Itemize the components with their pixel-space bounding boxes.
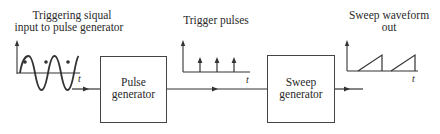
pulse-arrow-icon: [215, 57, 220, 63]
pulse-generator-block: Pulse generator: [101, 57, 167, 123]
flow-arrow-icon: [344, 87, 350, 92]
trigger-pulses-t-label: t: [246, 74, 249, 85]
input-signal-t-label: t: [78, 73, 81, 84]
flow-arrow-icon: [212, 87, 218, 92]
y-axis-arrow-icon: [181, 40, 185, 46]
trigger-point-icon: [44, 60, 48, 64]
trigger-point-icon: [23, 60, 27, 64]
pulse-arrows: [198, 57, 237, 72]
input-signal-title-line2: input to pulse generator: [15, 21, 124, 34]
trigger-pulses-group: Trigger pulses t: [181, 14, 250, 85]
sawtooth-waveform: [358, 55, 415, 71]
y-axis-arrow-icon: [15, 40, 19, 46]
sweep-generator-label-line2: generator: [279, 88, 323, 101]
trigger-pulses-title: Trigger pulses: [183, 14, 249, 27]
block-diagram: Triggering siqual input to pulse generat…: [0, 0, 440, 134]
sweep-output-t-label: t: [412, 73, 415, 84]
flow-arrow-icon: [83, 87, 89, 92]
trigger-point-icon: [66, 60, 70, 64]
sweep-output-title-line2: out: [382, 21, 398, 33]
sweep-output-group: Sweep waveform out t: [345, 9, 429, 84]
pulse-generator-label-line1: Pulse: [121, 76, 146, 88]
pulse-generator-label-line2: generator: [112, 88, 156, 101]
sweep-generator-block: Sweep generator: [268, 56, 335, 123]
pulse-arrow-icon: [232, 57, 237, 63]
y-axis-arrow-icon: [345, 40, 349, 46]
pulse-arrow-icon: [198, 57, 203, 63]
